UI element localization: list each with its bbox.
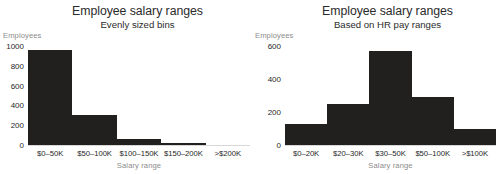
x-tick-label: >$100K — [454, 149, 496, 158]
chart-subtitle: Evenly sized bins — [24, 19, 251, 31]
x-tick-label: $20–30K — [327, 149, 369, 158]
plot-area-left: 1000 800 600 400 200 0 $0–50K $50–100K $… — [28, 46, 250, 145]
chart-panel-evenly-sized-bins: Employee salary ranges Evenly sized bins… — [0, 0, 251, 174]
bar[interactable] — [369, 51, 411, 145]
x-tick-label: $0–20K — [285, 149, 327, 158]
x-tick-labels-left: $0–50K $50–100K $100–150K $150–200K >$20… — [28, 149, 250, 158]
chart-figure: Employee salary ranges Evenly sized bins… — [0, 0, 502, 174]
chart-title-block-right: Employee salary ranges Based on HR pay r… — [251, 4, 502, 31]
x-tick-label: $0–50K — [28, 149, 72, 158]
y-tick-label: 200 — [268, 108, 281, 117]
x-tick-label: $150–200K — [161, 149, 205, 158]
x-axis-label: Salary range — [28, 161, 250, 170]
y-tick-label: 0 — [20, 141, 24, 150]
y-tick-label: 800 — [11, 61, 24, 70]
chart-title: Employee salary ranges — [273, 4, 502, 19]
bar[interactable] — [28, 50, 72, 145]
x-tick-label: $100–150K — [117, 149, 161, 158]
bar[interactable] — [285, 124, 327, 145]
x-axis-label: Salary range — [285, 161, 496, 170]
y-tick-label: 600 — [268, 42, 281, 51]
x-tick-label: $50–100K — [412, 149, 454, 158]
y-tick-label: 200 — [11, 121, 24, 130]
y-tick-label: 400 — [268, 74, 281, 83]
bar-series-right — [285, 46, 496, 145]
chart-panel-hr-pay-ranges: Employee salary ranges Based on HR pay r… — [251, 0, 502, 174]
x-axis-line — [285, 145, 496, 146]
plot-area-right: 600 400 200 0 $0–20K $20–30K $30–50K $50… — [285, 46, 496, 145]
y-axis-label: Employees — [255, 31, 293, 40]
bar[interactable] — [412, 97, 454, 145]
x-tick-label: $30–50K — [369, 149, 411, 158]
y-tick-label: 600 — [11, 81, 24, 90]
y-tick-label: 1000 — [6, 42, 24, 51]
x-tick-labels-right: $0–20K $20–30K $30–50K $50–100K >$100K — [285, 149, 496, 158]
bar[interactable] — [72, 115, 116, 145]
bar[interactable] — [454, 129, 496, 145]
chart-title: Employee salary ranges — [24, 4, 251, 19]
bar-series-left — [28, 46, 250, 145]
x-tick-label: >$200K — [206, 149, 250, 158]
y-tick-label: 400 — [11, 101, 24, 110]
x-tick-label: $50–100K — [72, 149, 116, 158]
chart-title-block-left: Employee salary ranges Evenly sized bins — [0, 4, 251, 31]
x-axis-line — [28, 145, 250, 146]
y-axis-label: Employees — [3, 31, 41, 40]
bar[interactable] — [327, 104, 369, 145]
chart-subtitle: Based on HR pay ranges — [273, 19, 502, 31]
y-tick-label: 0 — [277, 141, 281, 150]
